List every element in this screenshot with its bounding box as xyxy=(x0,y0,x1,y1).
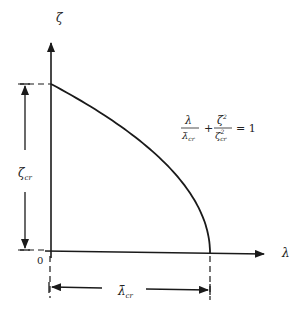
lambda-cr-label: λ̄cr xyxy=(117,284,134,300)
origin-label: 0 xyxy=(37,255,43,266)
eq-plus: + xyxy=(204,122,213,135)
interaction-curve xyxy=(51,84,210,253)
eq-term2-denominator: ζ2cr xyxy=(215,128,228,142)
lambda-cr-dimension-left xyxy=(52,287,102,288)
zeta-cr-label: ζcr xyxy=(18,166,32,182)
eq-term1-denominator: λ̄cr xyxy=(181,130,196,142)
eq-term2-numerator: ζ2 xyxy=(217,113,227,127)
x-axis-label: λ xyxy=(281,246,290,260)
interaction-diagram: ζ λ 0 ζcr λ̄cr λ λ̄cr + ζ2 ζ2cr = 1 xyxy=(0,0,307,312)
interaction-equation: λ λ̄cr + ζ2 ζ2cr = 1 xyxy=(181,113,256,142)
x-axis xyxy=(45,251,264,254)
eq-equals-one: = 1 xyxy=(236,122,256,135)
lambda-cr-dimension-right xyxy=(146,289,208,290)
y-axis-label: ζ xyxy=(56,11,64,25)
eq-term1-numerator: λ xyxy=(184,114,192,127)
